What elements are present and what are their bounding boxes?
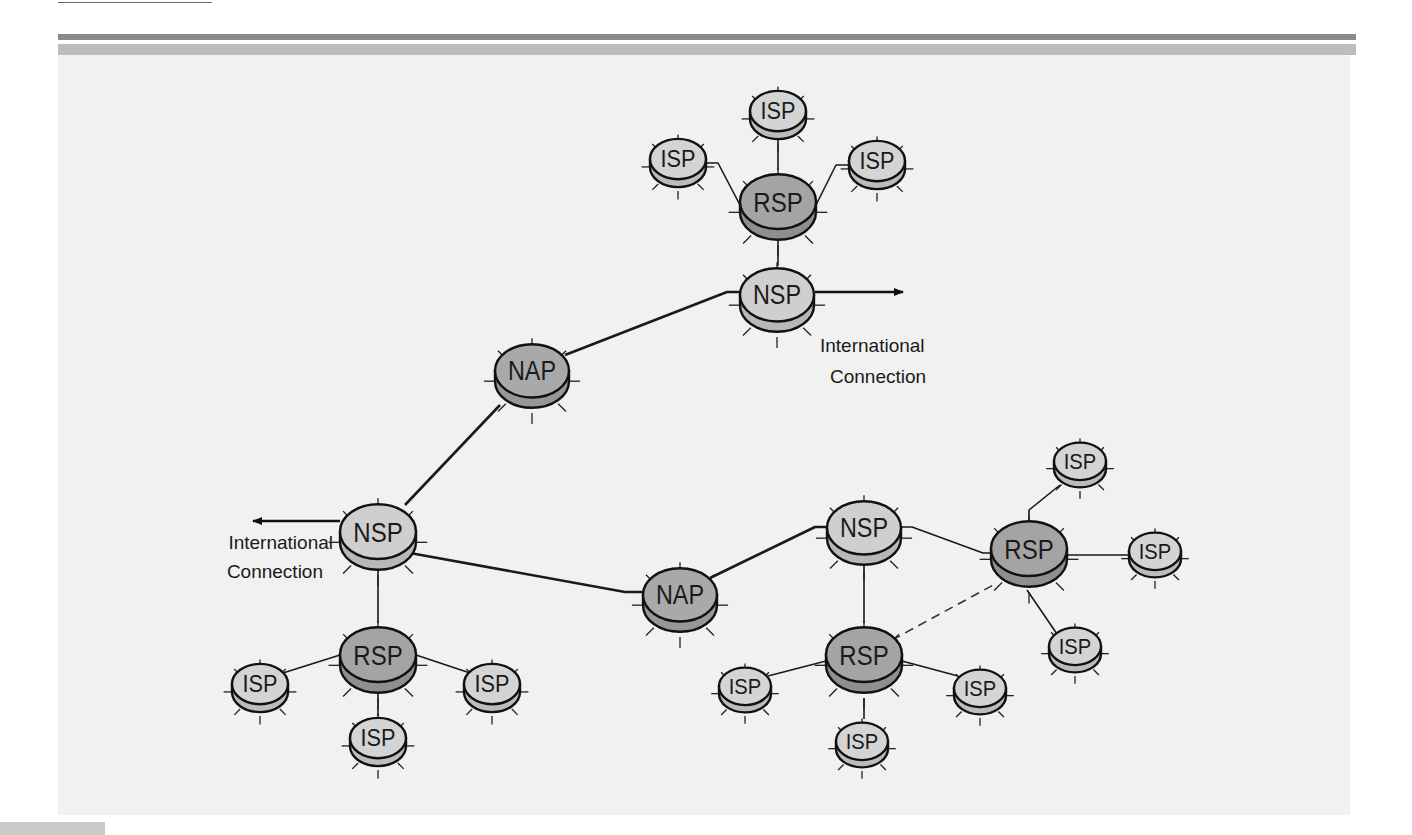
node-nsp-top: NSP	[729, 262, 825, 348]
spike-icon	[1173, 574, 1179, 580]
spike-icon	[1131, 574, 1137, 580]
spike-icon	[405, 565, 413, 573]
network-hierarchy-diagram: InternationalConnectionInternationalConn…	[0, 0, 1412, 835]
node-label-nsp: NSP	[840, 512, 888, 543]
node-label-isp: ISP	[661, 146, 696, 172]
connection-label-line1: International	[228, 532, 333, 553]
edge-isp-top-left-rsp-top	[706, 163, 740, 205]
spike-icon	[405, 688, 413, 696]
spike-icon	[234, 709, 240, 715]
node-label-rsp: RSP	[839, 640, 888, 671]
spike-icon	[994, 582, 1002, 590]
spike-icon	[805, 235, 813, 243]
spike-icon	[343, 688, 351, 696]
node-label-rsp: RSP	[353, 640, 402, 671]
node-nap-top: NAP	[484, 338, 580, 424]
edges-layer	[283, 140, 1129, 719]
edge-rsp-bottom-rsp-right	[892, 583, 997, 640]
spike-icon	[803, 328, 811, 336]
spike-icon	[830, 561, 838, 569]
spike-icon	[398, 763, 404, 769]
spike-icon	[721, 709, 727, 715]
spike-icon	[891, 688, 899, 696]
node-label-isp: ISP	[1064, 450, 1097, 474]
edge-rsp-bottom-isp-br-right	[902, 661, 958, 676]
edge-rsp-right-isp-r-bottom	[1027, 590, 1057, 634]
node-label-rsp: RSP	[1004, 534, 1053, 565]
spike-icon	[646, 628, 654, 636]
node-label-isp: ISP	[729, 675, 762, 699]
edge-nsp-right-rsp-right	[901, 527, 991, 553]
spike-icon	[280, 709, 286, 715]
node-isp-r-top: ISP	[1046, 438, 1114, 498]
spike-icon	[829, 688, 837, 696]
node-isp-br-right: ISP	[946, 665, 1014, 725]
connection-label-line1: International	[820, 335, 925, 356]
edge-rsp-left-isp-bl-left	[283, 655, 340, 673]
node-rsp-right: RSP	[980, 515, 1079, 603]
node-nap-bottom: NAP	[632, 562, 728, 648]
node-label-rsp: RSP	[753, 187, 802, 218]
spike-icon	[1056, 582, 1064, 590]
node-label-isp: ISP	[1059, 635, 1092, 659]
international-connection-intl-right: InternationalConnection	[815, 292, 926, 387]
node-label-nap: NAP	[508, 355, 556, 386]
connection-label-line2: Connection	[227, 561, 323, 582]
node-isp-br-left: ISP	[711, 663, 779, 723]
node-isp-bl-right: ISP	[456, 659, 529, 724]
spike-icon	[698, 184, 704, 190]
edge-nsp-top-nap-top	[565, 292, 740, 355]
spike-icon	[956, 711, 962, 717]
spike-icon	[752, 136, 758, 142]
spike-icon	[706, 628, 714, 636]
node-label-isp: ISP	[475, 671, 510, 697]
node-isp-r-right: ISP	[1121, 528, 1189, 588]
edge-rsp-left-isp-bl-right	[416, 655, 470, 673]
spike-icon	[343, 565, 351, 573]
spike-icon	[897, 186, 903, 192]
edge-nsp-left-nap-bottom	[410, 553, 643, 592]
node-label-nsp: NSP	[353, 517, 402, 548]
node-label-isp: ISP	[361, 725, 396, 751]
nodes-layer: ISPISPISPRSPNSPNAPNSPRSPISPISPISPNAPNSPR…	[224, 86, 1189, 778]
edge-nap-top-nsp-left	[405, 405, 500, 505]
node-isp-bl-left: ISP	[224, 659, 297, 724]
node-label-nsp: NSP	[753, 279, 801, 310]
spike-icon	[763, 709, 769, 715]
node-label-isp: ISP	[1139, 540, 1172, 564]
node-isp-top-left: ISP	[642, 134, 715, 199]
spike-icon	[1051, 669, 1057, 675]
spike-icon	[851, 186, 857, 192]
node-label-isp: ISP	[846, 730, 879, 754]
spike-icon	[743, 328, 751, 336]
node-rsp-bottom: RSP	[815, 621, 914, 709]
node-isp-br-bottom: ISP	[828, 718, 896, 778]
edge-rsp-right-isp-r-top	[1029, 485, 1060, 520]
spike-icon	[838, 764, 844, 770]
node-isp-r-bottom: ISP	[1041, 623, 1109, 683]
spike-icon	[998, 711, 1004, 717]
node-isp-top-right: ISP	[841, 136, 914, 201]
spike-icon	[880, 764, 886, 770]
spike-icon	[743, 235, 751, 243]
spike-icon	[1093, 669, 1099, 675]
connection-label-line2: Connection	[830, 366, 926, 387]
node-isp-bl-bottom: ISP	[342, 713, 415, 778]
node-label-nap: NAP	[656, 579, 704, 610]
spike-icon	[798, 136, 804, 142]
spike-icon	[466, 709, 472, 715]
spike-icon	[652, 184, 658, 190]
international-connection-intl-left: InternationalConnection	[227, 521, 340, 582]
edge-rsp-bottom-isp-br-left	[768, 661, 826, 676]
node-label-isp: ISP	[243, 671, 278, 697]
node-label-isp: ISP	[761, 98, 796, 124]
spike-icon	[1098, 484, 1104, 490]
edge-nap-bottom-nsp-right	[710, 527, 827, 578]
node-label-isp: ISP	[964, 677, 997, 701]
spike-icon	[352, 763, 358, 769]
spike-icon	[512, 709, 518, 715]
node-label-isp: ISP	[860, 148, 895, 174]
spike-icon	[558, 404, 566, 412]
edge-isp-top-right-rsp-top	[816, 165, 849, 205]
spike-icon	[890, 561, 898, 569]
